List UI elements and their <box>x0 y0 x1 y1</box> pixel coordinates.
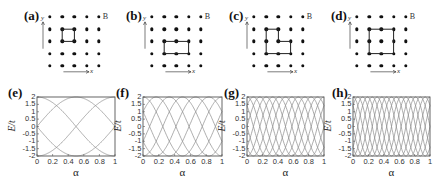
y-axis-title: E/t <box>113 120 123 131</box>
energy-level-curve <box>143 97 222 156</box>
y-axis-title: E/t <box>7 120 17 131</box>
energy-level-curve <box>37 97 115 156</box>
energy-level-curve <box>143 97 222 156</box>
x-tick-label: 1 <box>428 158 432 166</box>
x-tick-label: 0 <box>35 158 39 166</box>
x-tick-label: 0.6 <box>394 158 404 166</box>
x-tick-label: 0.6 <box>288 158 298 166</box>
x-axis-title: α <box>283 166 289 178</box>
x-tick-label: 0.6 <box>185 158 195 166</box>
x-tick-label: 0.4 <box>63 158 73 166</box>
x-tick-label: 0 <box>141 158 145 166</box>
energy-level-curve <box>37 127 115 157</box>
flux-loop <box>266 29 290 53</box>
x-tick-label: 0.4 <box>273 158 283 166</box>
energy-level-curve <box>37 97 115 127</box>
x-tick-label: 0.8 <box>410 158 420 166</box>
x-tick-label: 0.4 <box>170 158 180 166</box>
figure-overlay <box>0 0 446 181</box>
x-tick-label: 0.8 <box>304 158 314 166</box>
x-axis-title: α <box>389 166 395 178</box>
x-tick-label: 1 <box>220 158 224 166</box>
energy-level-curve <box>143 97 222 156</box>
x-tick-label: 1 <box>322 158 326 166</box>
x-axis-title: α <box>180 166 186 178</box>
x-tick-label: 0.2 <box>363 158 373 166</box>
flux-loop <box>369 29 393 53</box>
x-tick-label: 0 <box>245 158 249 166</box>
flux-loop <box>62 29 74 41</box>
x-tick-label: 0.6 <box>79 158 89 166</box>
x-tick-label: 0 <box>351 158 355 166</box>
y-axis-title: E/t <box>217 120 227 131</box>
x-tick-label: 0.8 <box>94 158 104 166</box>
x-tick-label: 0.2 <box>154 158 164 166</box>
energy-level-curve <box>143 97 222 156</box>
y-axis-title: E/t <box>323 120 333 131</box>
x-tick-label: 1 <box>113 158 117 166</box>
x-tick-label: 0.2 <box>257 158 267 166</box>
plot-frame <box>143 97 222 156</box>
x-tick-label: 0.8 <box>201 158 211 166</box>
energy-level-curve <box>143 97 222 156</box>
x-tick-label: 0.4 <box>379 158 389 166</box>
x-axis-title: α <box>73 166 79 178</box>
x-tick-label: 0.2 <box>48 158 58 166</box>
flux-loop <box>164 41 188 53</box>
energy-level-curve <box>143 97 222 156</box>
